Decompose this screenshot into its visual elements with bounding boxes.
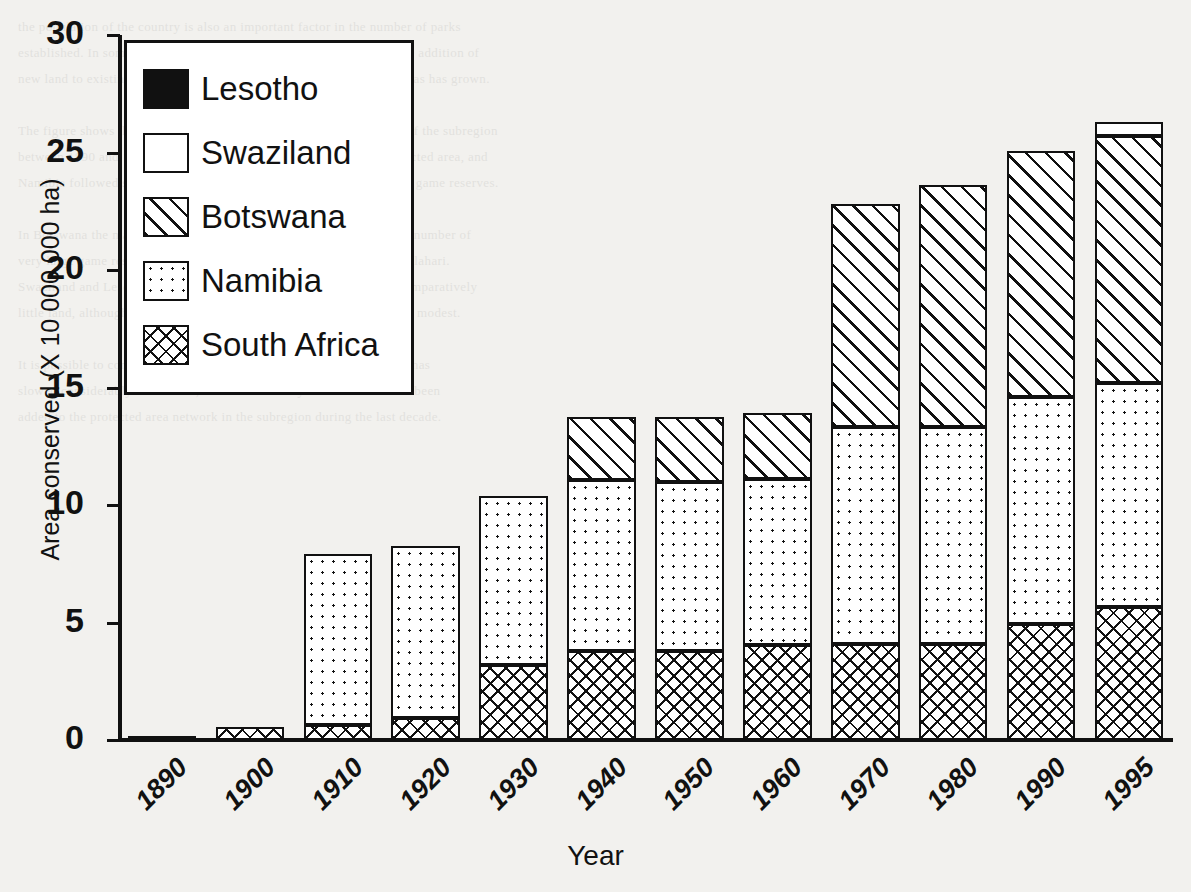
bar-segment-namibia (655, 482, 724, 651)
bar-segment-botswana (567, 417, 636, 480)
bar-segment-botswana (655, 417, 724, 482)
bar-1930 (479, 496, 548, 740)
legend-swatch-icon (143, 325, 189, 365)
bar-segment-namibia (391, 546, 460, 718)
bar-1970 (831, 204, 900, 740)
bar-segment-south-africa (1007, 624, 1076, 740)
legend-swatch-icon (143, 69, 189, 109)
bar-1980 (919, 185, 988, 740)
bar-1910 (304, 554, 373, 740)
bar-1920 (391, 546, 460, 740)
bar-1995 (1095, 122, 1164, 740)
bar-1990 (1007, 151, 1076, 740)
y-axis-tick-label: 30 (0, 15, 84, 49)
legend-item-label: Lesotho (201, 70, 318, 108)
legend-item-swaziland: Swaziland (143, 121, 411, 185)
x-axis-title: Year (0, 840, 1191, 872)
legend-item-south-africa: South Africa (143, 313, 411, 377)
bar-segment-namibia (919, 427, 988, 643)
y-axis-title: Area conserved (X 10 000 000 ha) (36, 90, 65, 650)
chart-legend: LesothoSwazilandBotswanaNamibiaSouth Afr… (124, 40, 414, 395)
bar-segment-south-africa (567, 651, 636, 740)
bar-segment-south-africa (216, 727, 285, 740)
bar-segment-botswana (831, 204, 900, 427)
bar-segment-south-africa (655, 651, 724, 740)
legend-item-label: Botswana (201, 198, 346, 236)
legend-item-botswana: Botswana (143, 185, 411, 249)
bar-1940 (567, 417, 636, 740)
bar-1960 (743, 413, 812, 740)
bar-segment-namibia (1007, 397, 1076, 624)
bar-1890 (128, 738, 197, 740)
bar-segment-namibia (567, 480, 636, 650)
bar-segment-south-africa (391, 718, 460, 740)
bar-segment-botswana (1007, 151, 1076, 397)
bar-1950 (655, 417, 724, 740)
bar-segment-south-africa (304, 725, 373, 740)
bar-segment-botswana (1095, 136, 1164, 383)
bar-segment-south-africa (919, 644, 988, 740)
legend-swatch-icon (143, 197, 189, 237)
legend-item-label: Swaziland (201, 134, 351, 172)
bar-segment-botswana (743, 413, 812, 479)
bar-segment-botswana (919, 185, 988, 427)
legend-swatch-icon (143, 261, 189, 301)
bar-segment-south-africa (743, 645, 812, 740)
bar-segment-south-africa (479, 665, 548, 740)
bar-segment-namibia (304, 554, 373, 724)
y-axis-tick-label: 0 (0, 720, 84, 754)
bar-1900 (216, 727, 285, 740)
stacked-bar-chart: 051015202530 Area conserved (X 10 000 00… (0, 0, 1191, 892)
bar-segment-south-africa (831, 644, 900, 740)
legend-item-label: Namibia (201, 262, 322, 300)
legend-swatch-icon (143, 133, 189, 173)
bar-segment-swaziland (1095, 122, 1164, 136)
bar-segment-south-africa (128, 736, 197, 740)
bar-segment-south-africa (1095, 607, 1164, 740)
legend-item-lesotho: Lesotho (143, 57, 411, 121)
legend-item-label: South Africa (201, 326, 379, 364)
bar-segment-namibia (743, 479, 812, 645)
bar-segment-namibia (479, 496, 548, 665)
bar-segment-namibia (1095, 383, 1164, 607)
bar-segment-namibia (831, 427, 900, 643)
legend-item-namibia: Namibia (143, 249, 411, 313)
